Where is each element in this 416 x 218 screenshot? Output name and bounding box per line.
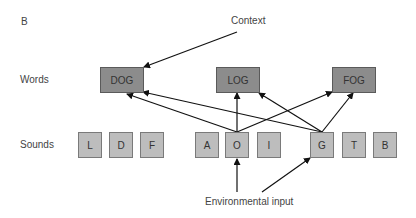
word-node-fog: FOG xyxy=(332,67,376,93)
sound-node-d: D xyxy=(109,132,133,158)
sound-label: L xyxy=(87,140,93,151)
word-label: LOG xyxy=(227,75,248,86)
sound-node-g: G xyxy=(310,132,334,158)
sound-node-i: I xyxy=(257,132,281,158)
sound-label: D xyxy=(117,140,124,151)
word-node-log: LOG xyxy=(216,67,260,93)
sound-node-o: O xyxy=(225,132,249,158)
sound-label: I xyxy=(268,140,271,151)
arrow-g-to-log xyxy=(259,93,322,132)
arrow-context-to-dog xyxy=(144,32,237,67)
sound-label: B xyxy=(382,140,389,151)
arrow-env-to-g xyxy=(262,158,310,192)
sound-label: T xyxy=(351,140,357,151)
sound-node-t: T xyxy=(342,132,366,158)
diagram-canvas: B Context Words Sounds DOG LOG FOG L D F… xyxy=(0,0,416,218)
sound-node-b: B xyxy=(373,132,397,158)
arrow-g-to-dog xyxy=(143,92,322,132)
context-label: Context xyxy=(231,15,265,26)
word-node-dog: DOG xyxy=(100,67,144,93)
sound-label: A xyxy=(204,140,211,151)
arrow-g-to-fog xyxy=(322,93,353,132)
arrow-o-to-dog xyxy=(127,94,237,132)
word-label: FOG xyxy=(343,75,365,86)
arrow-o-to-fog xyxy=(237,92,332,132)
sound-node-l: L xyxy=(78,132,102,158)
sound-label: O xyxy=(233,140,241,151)
sound-node-f: F xyxy=(140,132,164,158)
sound-label: G xyxy=(318,140,326,151)
words-row-label: Words xyxy=(20,74,49,85)
connection-arrows xyxy=(0,0,416,218)
panel-label: B xyxy=(21,16,28,27)
sounds-row-label: Sounds xyxy=(20,139,54,150)
sound-node-a: A xyxy=(195,132,219,158)
word-label: DOG xyxy=(111,75,134,86)
environmental-input-label: Environmental input xyxy=(205,196,293,207)
sound-label: F xyxy=(149,140,155,151)
